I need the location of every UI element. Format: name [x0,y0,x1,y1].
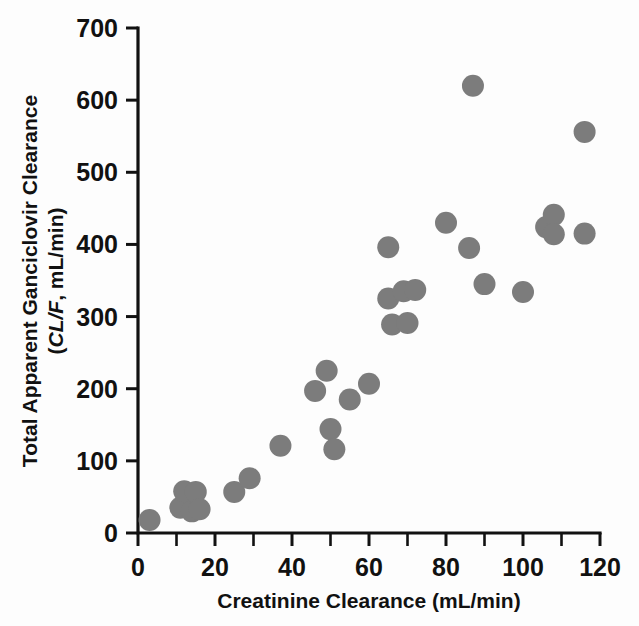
y-tick-label: 600 [76,86,118,114]
data-point [377,236,399,258]
data-point [316,360,338,382]
y-tick-label: 700 [76,14,118,42]
y-tick-label: 200 [76,375,118,403]
data-point [543,223,565,245]
x-tick-label: 100 [502,553,544,581]
data-point [543,204,565,226]
data-point [269,435,291,457]
y-tick-label: 400 [76,230,118,258]
data-point [139,509,161,531]
plot-svg: 020406080100120 0100200300400500600700 C… [0,0,639,626]
data-point [574,223,596,245]
y-axis-title-line2: (CL/F, mL/min) [44,208,67,355]
data-point [458,237,480,259]
y-axis-title-italic-clf: CL/F [44,300,67,348]
data-point [474,273,496,295]
data-point [462,75,484,97]
data-point [358,373,380,395]
data-point [512,281,534,303]
x-tick-label: 120 [579,553,621,581]
data-point [239,467,261,489]
x-axis-title: Creatinine Clearance (mL/min) [217,589,520,612]
y-tick-label: 100 [76,447,118,475]
data-point [320,418,342,440]
x-tick-label: 20 [201,553,229,581]
data-point [323,438,345,460]
y-tick-label: 500 [76,158,118,186]
x-tick-label: 0 [131,553,145,581]
data-point [339,389,361,411]
y-tick-label: 0 [104,519,118,547]
x-tick-label: 40 [278,553,306,581]
y-tick-label: 300 [76,303,118,331]
data-point [304,380,326,402]
x-tick-label: 60 [355,553,383,581]
y-axis-title-paren-open: ( [44,348,67,355]
x-tick-label: 80 [432,553,460,581]
y-axis-title-units: , mL/min) [44,208,67,301]
data-point [435,212,457,234]
data-point [397,312,419,334]
scatter-plot-figure: 020406080100120 0100200300400500600700 C… [0,0,639,626]
data-point [189,498,211,520]
data-point [574,121,596,143]
y-axis-title-line1: Total Apparent Ganciclovir Clearance [18,95,41,467]
data-point [404,279,426,301]
